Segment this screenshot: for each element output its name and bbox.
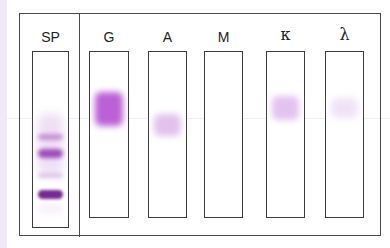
band-sp-2 — [38, 149, 63, 158]
lane-label-igg: G — [89, 28, 129, 46]
lane-a — [148, 51, 187, 218]
lane-g — [89, 51, 129, 218]
lane-label-kappa: κ — [266, 26, 305, 44]
lane-m — [204, 51, 243, 218]
band-lambda-0 — [331, 98, 358, 118]
band-sp-1 — [38, 134, 63, 140]
lane-sp — [32, 51, 69, 228]
lane-label-sp: SP — [32, 28, 69, 46]
sp-ife-divider — [79, 13, 80, 237]
lane-lambda — [325, 51, 364, 218]
band-sp-3 — [38, 173, 63, 178]
lane-kappa — [266, 51, 305, 218]
band-sp-0 — [38, 114, 63, 174]
lane-label-iga: A — [148, 28, 187, 46]
left-edge-strip — [0, 0, 7, 248]
band-sp-4 — [38, 190, 63, 199]
lane-label-igm: M — [204, 28, 243, 46]
lane-label-lambda: λ — [325, 26, 364, 44]
band-sp-5 — [38, 204, 63, 214]
band-g-0 — [95, 92, 123, 126]
band-kappa-0 — [272, 96, 299, 120]
band-a-0 — [154, 114, 181, 136]
